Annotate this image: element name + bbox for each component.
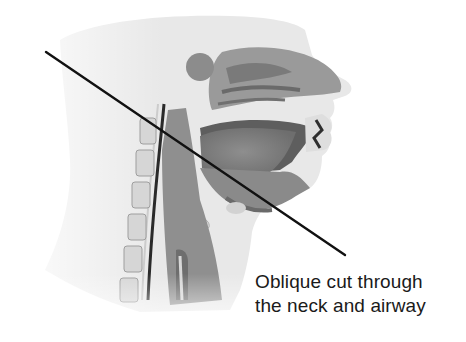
caption-line-1: Oblique cut through xyxy=(255,270,426,294)
anatomy-figure: Oblique cut through the neck and airway xyxy=(0,0,466,342)
cut-caption: Oblique cut through the neck and airway xyxy=(255,270,426,318)
caption-line-2: the neck and airway xyxy=(255,294,426,318)
